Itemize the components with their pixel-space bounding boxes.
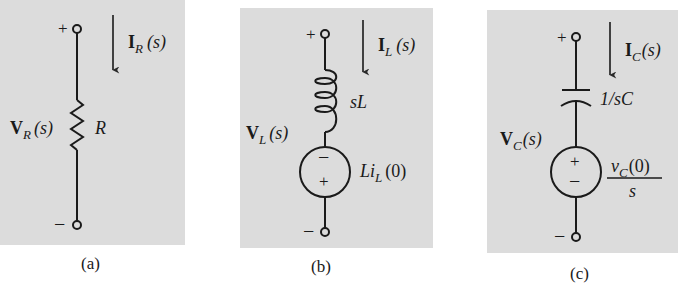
terminal-plus-sign: + [58, 19, 68, 38]
source-label-numerator: vC(0) [611, 156, 650, 180]
impedance-label-r: R [94, 118, 106, 138]
panel-a-resistor-circuit [71, 15, 113, 229]
terminal-plus-icon [73, 25, 81, 33]
terminal-minus-sign: − [54, 213, 65, 235]
terminal-minus-icon [572, 233, 580, 241]
current-label-ir: IR(s) [128, 32, 166, 56]
source-top-sign: − [318, 146, 329, 168]
terminal-plus-sign: + [306, 25, 316, 44]
terminal-minus-icon [73, 221, 81, 229]
inductor-coil-icon [315, 70, 336, 132]
impedance-label-1-over-sc: 1/sC [600, 89, 634, 109]
source-bottom-sign: − [569, 170, 580, 192]
terminal-plus-icon [572, 33, 580, 41]
caption-a: (a) [81, 254, 100, 274]
terminal-minus-sign: − [303, 220, 314, 242]
terminal-minus-sign: − [554, 225, 565, 247]
terminal-plus-icon [321, 30, 329, 38]
source-bottom-sign: + [319, 172, 329, 191]
terminal-plus-sign: + [557, 28, 567, 47]
caption-c: (c) [570, 264, 589, 284]
voltage-label-vl: VL(s) [246, 123, 288, 147]
voltage-label-vr: VR(s) [10, 118, 53, 142]
panel-b-inductor-circuit [300, 20, 363, 236]
source-top-sign: + [570, 152, 580, 171]
caption-b: (b) [311, 257, 331, 277]
current-label-il: IL(s) [378, 35, 415, 59]
current-label-ic: IC(s) [625, 40, 661, 64]
impedance-label-sl: sL [350, 92, 367, 112]
resistor-icon [71, 100, 83, 150]
circuit-diagram: + − IR(s) VR(s) R + − − + IL(s) sL VL(s)… [0, 0, 678, 285]
terminal-minus-icon [321, 228, 329, 236]
source-label-denominator: s [629, 181, 636, 201]
source-label-li-l-0: LiL(0) [359, 161, 406, 185]
voltage-label-vc: VC(s) [500, 129, 542, 153]
